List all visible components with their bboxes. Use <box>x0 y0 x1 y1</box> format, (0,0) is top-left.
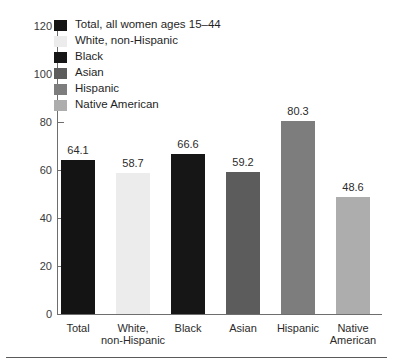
legend-label: Total, all women ages 15–44 <box>75 19 221 31</box>
bar-chart: 020406080100120 64.158.766.659.280.348.6… <box>0 0 393 361</box>
footer-rule <box>6 357 387 358</box>
legend-label: Native American <box>75 99 159 111</box>
legend-swatch-icon <box>54 20 67 31</box>
y-tick-label: 100 <box>12 69 52 80</box>
legend-item: Native American <box>54 97 221 113</box>
legend-label: Hispanic <box>75 83 119 95</box>
legend-item: Hispanic <box>54 81 221 97</box>
bar-value-label: 58.7 <box>103 158 163 169</box>
y-tick-label: 120 <box>12 21 52 32</box>
legend-swatch-icon <box>54 52 67 63</box>
bar-value-label: 48.6 <box>323 182 383 193</box>
y-tick-label: 60 <box>12 165 52 176</box>
legend-swatch-icon <box>54 84 67 95</box>
bar-value-label: 64.1 <box>48 145 108 156</box>
bar-value-label: 66.6 <box>158 139 218 150</box>
x-axis-label-line: non-Hispanic <box>94 334 172 346</box>
bar <box>281 121 315 314</box>
legend-label: Black <box>75 51 103 63</box>
legend-item: Asian <box>54 65 221 81</box>
legend-swatch-icon <box>54 36 67 47</box>
y-tick-mark <box>58 122 64 123</box>
legend-item: Total, all women ages 15–44 <box>54 17 221 33</box>
y-tick-label: 40 <box>12 213 52 224</box>
bar <box>61 160 95 314</box>
y-tick-label: 0 <box>12 309 52 320</box>
bar-value-label: 59.2 <box>213 157 273 168</box>
legend-swatch-icon <box>54 100 67 111</box>
bar <box>171 154 205 314</box>
bar <box>226 172 260 314</box>
x-axis-label: NativeAmerican <box>314 322 392 346</box>
y-tick-label: 80 <box>12 117 52 128</box>
plot-area: 020406080100120 64.158.766.659.280.348.6… <box>0 0 393 361</box>
legend-item: White, non-Hispanic <box>54 33 221 49</box>
legend-swatch-icon <box>54 68 67 79</box>
legend-item: Black <box>54 49 221 65</box>
chart-legend: Total, all women ages 15–44White, non-Hi… <box>54 17 221 113</box>
y-tick-label: 20 <box>12 261 52 272</box>
x-axis-baseline <box>57 314 382 315</box>
y-tick-mark <box>58 314 64 315</box>
bar <box>116 173 150 314</box>
x-axis-label-line: American <box>314 334 392 346</box>
bar-value-label: 80.3 <box>268 106 328 117</box>
legend-label: White, non-Hispanic <box>75 35 178 47</box>
x-axis-label-line: Native <box>314 322 392 334</box>
legend-label: Asian <box>75 67 104 79</box>
bar <box>336 197 370 314</box>
